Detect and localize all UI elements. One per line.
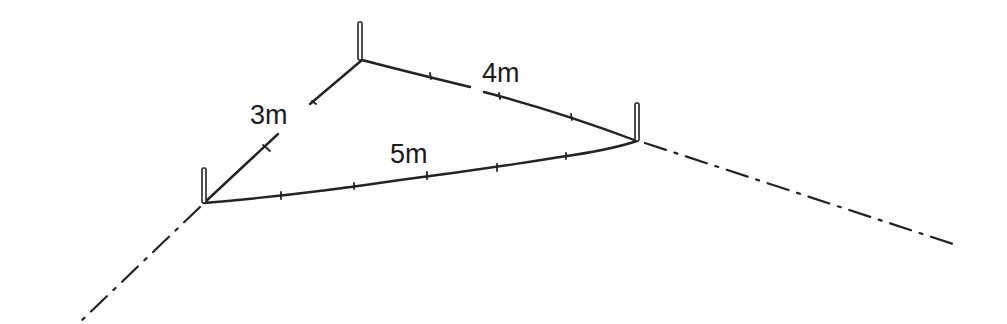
triangle-diagram: 3m 4m 5m bbox=[0, 0, 1007, 324]
label-4m: 4m bbox=[482, 58, 520, 88]
stake-right-icon bbox=[635, 103, 639, 141]
extension-line-left bbox=[80, 207, 200, 322]
extension-line-right bbox=[645, 143, 956, 245]
stake-apex-icon bbox=[358, 22, 362, 60]
side-3m bbox=[204, 60, 362, 203]
label-5m: 5m bbox=[390, 139, 428, 169]
stake-left-icon bbox=[202, 168, 206, 203]
label-3m: 3m bbox=[250, 100, 288, 130]
